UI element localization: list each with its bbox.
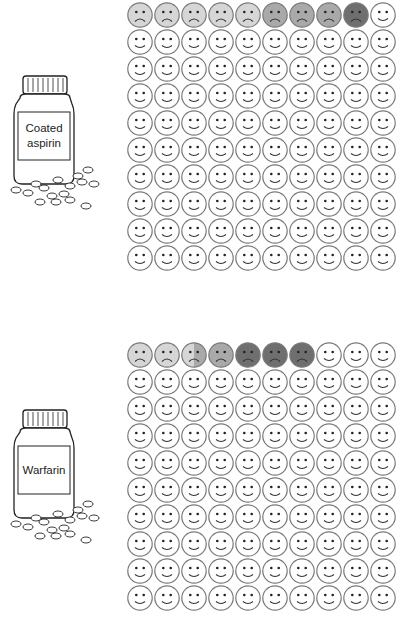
happy-face-icon (316, 531, 342, 557)
happy-face-icon (316, 504, 342, 530)
happy-face-icon (127, 218, 153, 244)
happy-face-icon (208, 396, 234, 422)
happy-face-icon (181, 504, 207, 530)
happy-face-icon (370, 504, 396, 530)
happy-face-icon (343, 531, 369, 557)
happy-face-icon (370, 29, 396, 55)
happy-face-icon (235, 29, 261, 55)
happy-face-icon (208, 558, 234, 584)
happy-face-icon (289, 450, 315, 476)
sad-face-icon (289, 2, 315, 28)
happy-face-icon (208, 110, 234, 136)
happy-face-icon (370, 245, 396, 271)
happy-face-icon (208, 29, 234, 55)
sad-face-icon (154, 2, 180, 28)
happy-face-icon (343, 191, 369, 217)
sad-face-icon (343, 2, 369, 28)
sad-face-icon (208, 342, 234, 368)
happy-face-icon (343, 585, 369, 611)
happy-face-icon (370, 56, 396, 82)
panel-coated-aspirin: Coated aspirin (0, 0, 404, 300)
happy-face-icon (208, 245, 234, 271)
happy-face-icon (154, 83, 180, 109)
happy-face-icon (262, 137, 288, 163)
happy-face-icon (262, 477, 288, 503)
happy-face-icon (343, 342, 369, 368)
happy-face-icon (262, 531, 288, 557)
happy-face-icon (127, 450, 153, 476)
happy-face-icon (154, 504, 180, 530)
happy-face-icon (208, 164, 234, 190)
happy-face-icon (370, 110, 396, 136)
happy-face-icon (370, 2, 396, 28)
happy-face-icon (262, 558, 288, 584)
bottle-label: aspirin (27, 137, 61, 149)
happy-face-icon (181, 477, 207, 503)
happy-face-icon (181, 164, 207, 190)
happy-face-icon (235, 164, 261, 190)
happy-face-icon (343, 558, 369, 584)
happy-face-icon (181, 396, 207, 422)
sad-face-icon (316, 2, 342, 28)
happy-face-icon (154, 423, 180, 449)
happy-face-icon (154, 137, 180, 163)
happy-face-icon (127, 504, 153, 530)
happy-face-icon (154, 245, 180, 271)
happy-face-icon (181, 558, 207, 584)
happy-face-icon (235, 137, 261, 163)
pill-bottle-icon: Coated aspirin (8, 68, 103, 218)
happy-face-icon (316, 137, 342, 163)
happy-face-icon (316, 558, 342, 584)
happy-face-icon (289, 137, 315, 163)
happy-face-icon (262, 450, 288, 476)
happy-face-icon (208, 218, 234, 244)
happy-face-icon (127, 164, 153, 190)
happy-face-icon (343, 245, 369, 271)
happy-face-icon (370, 164, 396, 190)
happy-face-icon (370, 83, 396, 109)
happy-face-icon (235, 558, 261, 584)
sad-face-icon (289, 342, 315, 368)
happy-face-icon (208, 585, 234, 611)
happy-face-icon (289, 504, 315, 530)
happy-face-icon (127, 110, 153, 136)
happy-face-icon (208, 450, 234, 476)
happy-face-icon (181, 191, 207, 217)
happy-face-icon (262, 504, 288, 530)
happy-face-icon (316, 56, 342, 82)
happy-face-icon (370, 218, 396, 244)
happy-face-icon (181, 218, 207, 244)
happy-face-icon (289, 396, 315, 422)
sad-face-icon (235, 342, 261, 368)
happy-face-icon (208, 137, 234, 163)
happy-face-icon (235, 504, 261, 530)
happy-face-icon (154, 56, 180, 82)
happy-face-icon (208, 504, 234, 530)
happy-face-icon (316, 83, 342, 109)
happy-face-icon (127, 191, 153, 217)
happy-face-icon (289, 164, 315, 190)
happy-face-icon (127, 477, 153, 503)
happy-face-icon (316, 191, 342, 217)
sad-face-icon (127, 342, 153, 368)
happy-face-icon (289, 191, 315, 217)
happy-face-icon (370, 396, 396, 422)
happy-face-icon (370, 342, 396, 368)
happy-face-icon (154, 396, 180, 422)
happy-face-icon (262, 585, 288, 611)
happy-face-icon (316, 585, 342, 611)
happy-face-icon (316, 164, 342, 190)
happy-face-icon (289, 110, 315, 136)
happy-face-icon (343, 396, 369, 422)
happy-face-icon (127, 558, 153, 584)
happy-face-icon (316, 396, 342, 422)
happy-face-icon (343, 164, 369, 190)
happy-face-icon (262, 56, 288, 82)
happy-face-icon (208, 531, 234, 557)
happy-face-icon (343, 218, 369, 244)
happy-face-icon (316, 477, 342, 503)
happy-face-icon (316, 342, 342, 368)
happy-face-icon (208, 83, 234, 109)
happy-face-icon (289, 558, 315, 584)
happy-face-icon (181, 585, 207, 611)
